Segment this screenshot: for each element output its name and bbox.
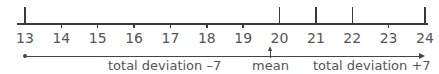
- tick-mark: [61, 23, 62, 28]
- tick-label: 14: [46, 30, 76, 46]
- number-line-diagram: 131415161718192021222324 total deviation…: [0, 0, 439, 74]
- deviation-line-right: [269, 56, 419, 57]
- tick-label: 22: [337, 30, 367, 46]
- tick-mark: [97, 23, 98, 28]
- deviation-line-left: [25, 56, 269, 57]
- data-point-tick: [315, 7, 316, 25]
- tick-label: 20: [265, 30, 295, 46]
- tick-mark: [206, 23, 207, 28]
- axis-line: [17, 23, 428, 25]
- tick-label: 16: [119, 30, 149, 46]
- tick-label: 13: [10, 30, 40, 46]
- tick-mark: [388, 23, 389, 28]
- arrow-up-icon: [268, 46, 272, 51]
- tick-mark: [133, 23, 134, 28]
- data-point-tick: [424, 7, 425, 25]
- right-deviation-label: total deviation +7: [313, 58, 431, 73]
- data-point-tick: [279, 7, 280, 25]
- tick-mark: [242, 23, 243, 28]
- data-point-tick: [352, 7, 353, 25]
- tick-label: 17: [155, 30, 185, 46]
- tick-label: 23: [374, 30, 404, 46]
- left-endpoint-dot: [23, 54, 27, 58]
- tick-mark: [170, 23, 171, 28]
- tick-label: 21: [301, 30, 331, 46]
- tick-label: 24: [410, 30, 439, 46]
- data-point-tick: [24, 7, 25, 25]
- tick-label: 18: [192, 30, 222, 46]
- mean-label: mean: [252, 58, 289, 73]
- mean-arrow-shaft: [270, 50, 271, 58]
- tick-label: 19: [228, 30, 258, 46]
- tick-label: 15: [83, 30, 113, 46]
- left-deviation-label: total deviation –7: [108, 58, 221, 73]
